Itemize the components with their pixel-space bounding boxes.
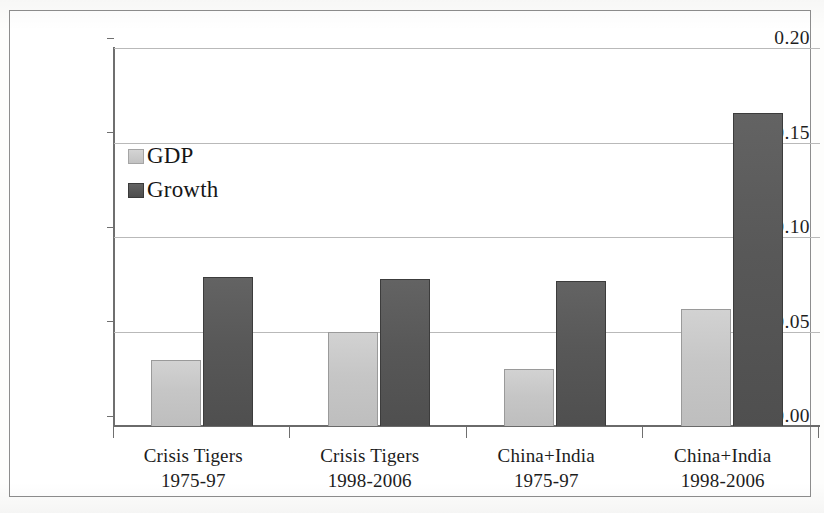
- legend-swatch-gdp-icon: [128, 149, 144, 164]
- gridline-0.20: [114, 48, 820, 49]
- chart-legend: GDP Growth: [128, 139, 218, 207]
- legend-item-gdp: GDP: [128, 139, 218, 173]
- bar-growth-group-4: [733, 113, 783, 426]
- chart-figure: 0.20 0.15 0.10 0.05 0.00 Cris: [0, 0, 824, 513]
- x-category-label-4-line1: China+India: [674, 445, 771, 466]
- x-tick-mark-3: [642, 427, 643, 438]
- x-category-label-2-line1: Crisis Tigers: [320, 445, 419, 466]
- x-category-label-2: Crisis Tigers1998-2006: [282, 443, 459, 493]
- legend-label-growth: Growth: [147, 177, 218, 203]
- bar-gdp-group-1: [151, 360, 201, 426]
- legend-label-gdp: GDP: [147, 143, 194, 169]
- x-category-label-4: China+India1998-2006: [635, 443, 812, 493]
- x-tick-mark-0: [113, 427, 114, 438]
- bar-growth-group-1: [203, 277, 253, 426]
- legend-item-growth: Growth: [128, 173, 218, 207]
- bar-gdp-group-4: [681, 309, 731, 426]
- gridline-0.10: [114, 237, 820, 238]
- x-category-label-1: Crisis Tigers1975-97: [105, 443, 282, 493]
- y-tick-mark-0: [107, 38, 114, 39]
- bar-growth-group-3: [556, 281, 606, 426]
- plot-area: [114, 48, 820, 426]
- x-category-label-1-line1: Crisis Tigers: [144, 445, 243, 466]
- x-tick-mark-4: [818, 427, 819, 438]
- bar-growth-group-2: [380, 279, 430, 426]
- x-category-label-3-line1: China+India: [498, 445, 595, 466]
- y-tick-label-0: 0.20: [722, 27, 810, 49]
- x-category-label-4-line2: 1998-2006: [635, 468, 812, 493]
- x-tick-mark-2: [466, 427, 467, 438]
- gridline-0.15: [114, 143, 820, 144]
- x-tick-mark-1: [289, 427, 290, 438]
- bar-gdp-group-3: [504, 369, 554, 426]
- x-category-label-1-line2: 1975-97: [105, 468, 282, 493]
- legend-swatch-growth-icon: [128, 183, 144, 198]
- chart-frame: 0.20 0.15 0.10 0.05 0.00 Cris: [9, 10, 811, 497]
- x-category-label-3-line2: 1975-97: [458, 468, 635, 493]
- x-category-label-2-line2: 1998-2006: [282, 468, 459, 493]
- x-category-label-3: China+India1975-97: [458, 443, 635, 493]
- bar-gdp-group-2: [328, 332, 378, 426]
